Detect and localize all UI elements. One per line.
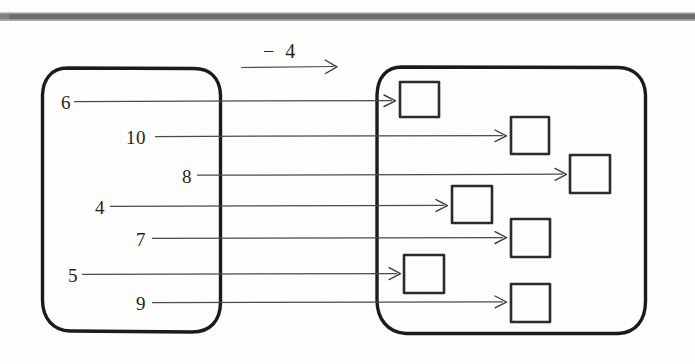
mapping-arrow-7 bbox=[152, 232, 507, 244]
rule-label: − 4 bbox=[263, 41, 298, 61]
input-value-2: 10 bbox=[126, 128, 146, 147]
worksheet-page: − 4 6 10 8 4 7 5 9 bbox=[0, 0, 695, 364]
mapping-arrow-4 bbox=[110, 200, 448, 212]
mapping-arrow-8 bbox=[197, 168, 567, 180]
input-value-1: 6 bbox=[61, 93, 71, 112]
input-value-4: 4 bbox=[95, 198, 105, 217]
rule-arrow bbox=[241, 60, 337, 74]
input-value-7: 9 bbox=[136, 294, 146, 313]
answer-box-4[interactable] bbox=[452, 186, 492, 223]
answer-box-6[interactable] bbox=[404, 255, 444, 293]
input-value-3: 8 bbox=[182, 167, 192, 186]
mapping-arrow-10 bbox=[155, 130, 507, 142]
answer-box-2[interactable] bbox=[511, 117, 549, 154]
answer-box-3[interactable] bbox=[570, 155, 610, 193]
mapping-arrow-6 bbox=[74, 95, 396, 107]
worksheet-drawing bbox=[0, 0, 695, 364]
input-value-6: 5 bbox=[68, 266, 78, 285]
input-value-5: 7 bbox=[136, 230, 146, 249]
mapping-arrow-5 bbox=[82, 268, 401, 280]
answer-box-1[interactable] bbox=[400, 82, 439, 117]
answer-box-7[interactable] bbox=[511, 284, 550, 322]
mapping-arrow-9 bbox=[152, 296, 507, 308]
answer-box-5[interactable] bbox=[511, 219, 550, 257]
scan-edge-band bbox=[0, 13, 695, 21]
